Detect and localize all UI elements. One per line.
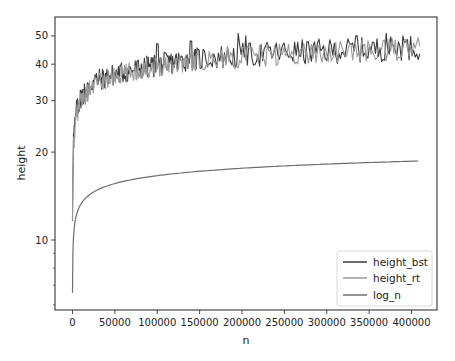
x-axis-label: n (243, 334, 250, 347)
x-tick-label: 300000 (308, 317, 346, 328)
x-tick-label: 0 (69, 317, 75, 328)
y-tick-label: 20 (35, 147, 48, 158)
x-tick-label: 400000 (392, 317, 430, 328)
y-tick-label: 50 (35, 30, 48, 41)
legend-label-height-rt: height_rt (373, 272, 420, 285)
legend: height_bst height_rt log_n (337, 251, 432, 306)
x-axis: 0500001000001500002000002500003000003500… (69, 310, 430, 328)
series-height-bst (73, 33, 420, 221)
y-axis: 1020304050 (35, 30, 55, 304)
x-tick-label: 50000 (99, 317, 131, 328)
x-tick-label: 250000 (265, 317, 303, 328)
series-height-rt (73, 38, 420, 221)
x-tick-label: 350000 (350, 317, 388, 328)
chart-canvas: 0500001000001500002000002500003000003500… (0, 0, 455, 361)
x-tick-label: 100000 (138, 317, 176, 328)
x-tick-label: 200000 (223, 317, 261, 328)
y-tick-label: 30 (35, 95, 48, 106)
legend-label-height-bst: height_bst (373, 256, 428, 269)
y-tick-label: 10 (35, 235, 48, 246)
y-axis-label: height (15, 145, 28, 181)
legend-label-log-n: log_n (373, 289, 401, 302)
y-tick-label: 40 (35, 59, 48, 70)
x-tick-label: 150000 (181, 317, 219, 328)
